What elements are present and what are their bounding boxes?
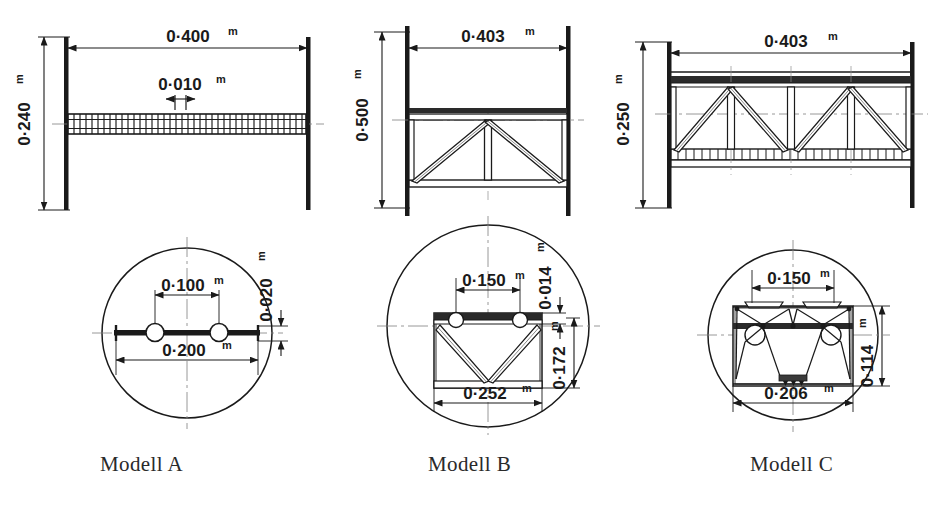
- model-label-b: Modell B: [428, 452, 511, 477]
- model-label-a: Modell A: [100, 452, 183, 477]
- dim-label-depth-b: 0·172: [550, 346, 569, 389]
- dim-label-outer-a: 0·200: [162, 341, 205, 360]
- dim-unit-height-b: m: [351, 69, 363, 79]
- model-label-c: Modell C: [750, 452, 833, 477]
- end-post-right: [562, 120, 567, 180]
- dim-unit-height-c: m: [612, 74, 624, 84]
- dim-label-top-width-c: 0·150: [767, 269, 810, 288]
- dim-unit-span-c: m: [828, 30, 838, 42]
- dim-unit-thickness-b: m: [534, 242, 546, 252]
- end-post-right: [906, 87, 911, 149]
- dim-unit-top-width-b: m: [515, 269, 525, 281]
- dim-unit-span-b: m: [525, 25, 535, 37]
- dim-label-span-c: 0·403: [764, 32, 807, 51]
- dim-unit-thickness-a: m: [216, 73, 226, 85]
- drawing-canvas: 0·400 m 0·010 m 0·240 m 0·100 m 0·200 m …: [0, 0, 941, 510]
- vertical-post-3: [848, 87, 855, 149]
- tube-left: [449, 313, 464, 328]
- dim-unit-bottom-width-b: m: [522, 382, 532, 394]
- deck-grid-plate: [68, 114, 306, 134]
- dim-label-thickness-a: 0·010: [158, 75, 201, 94]
- dim-unit-outer-a: m: [222, 339, 232, 351]
- dim-unit-inner-a: m: [214, 274, 224, 286]
- dim-label-height-c: 0·250: [614, 102, 633, 145]
- dim-label-depth-a: 0·020: [257, 278, 276, 321]
- dim-label-span-b: 0·403: [461, 27, 504, 46]
- vertical-post-1: [728, 87, 735, 149]
- dim-label-top-width-b: 0·150: [462, 271, 505, 290]
- dim-label-span-a: 0·400: [166, 27, 209, 46]
- dim-unit-span-a: m: [228, 25, 238, 37]
- end-post-left: [409, 120, 414, 180]
- vertical-post-2: [788, 87, 795, 149]
- end-post-left: [671, 87, 676, 149]
- dim-label-thickness-b: 0·014: [536, 266, 555, 310]
- dim-label-height-a: 0·240: [15, 102, 34, 145]
- bottom-chord: [409, 180, 567, 187]
- dim-label-depth-c: 0·114: [858, 344, 877, 387]
- deck-bar-a: [114, 330, 260, 336]
- dim-label-inner-a: 0·100: [161, 276, 204, 295]
- dim-label-bottom-width-b: 0·252: [463, 384, 506, 403]
- dim-unit-depth-a: m: [255, 251, 267, 261]
- top-chord-lower: [409, 114, 567, 120]
- top-chord-upper: [409, 108, 567, 113]
- truss-node: [790, 323, 795, 328]
- tube-left: [146, 324, 164, 342]
- dim-unit-top-width-c: m: [820, 267, 830, 279]
- dim-label-bottom-width-c: 0·206: [764, 384, 807, 403]
- tube-right: [513, 313, 528, 328]
- dim-unit-depth-b: m: [548, 321, 560, 331]
- centre-post: [485, 120, 492, 180]
- dim-label-height-b: 0·500: [353, 98, 372, 141]
- dim-unit-depth-c: m: [856, 318, 868, 328]
- dim-unit-bottom-width-c: m: [824, 382, 834, 394]
- dim-unit-height-a: m: [13, 74, 25, 84]
- technical-drawing-svg: 0·400 m 0·010 m 0·240 m 0·100 m 0·200 m …: [0, 0, 941, 510]
